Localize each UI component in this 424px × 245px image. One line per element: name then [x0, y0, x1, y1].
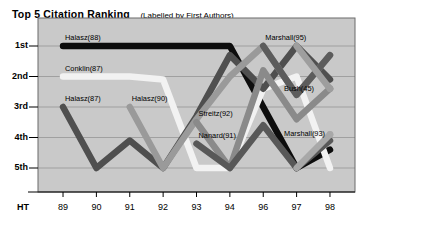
series-label: Streitz(92) [199, 109, 233, 118]
x-axis-tick-label: 92 [150, 202, 176, 212]
x-axis-tick-label: 97 [284, 202, 310, 212]
y-axis-tick-label: 2nd [2, 71, 28, 81]
series-label: Halasz(87) [65, 94, 101, 103]
series-label: Nanard(91) [199, 131, 236, 140]
x-axis-tick-label: 98 [317, 202, 343, 212]
y-axis-tick-label: 3rd [2, 101, 28, 111]
x-axis-tick-label: 96 [250, 202, 276, 212]
series-label: Conklin(87) [65, 64, 103, 73]
series-endpoint-marker [327, 85, 334, 92]
series-label: Marshall(95) [265, 33, 306, 42]
y-axis-tick-label: 5th [2, 162, 28, 172]
series-label: Bush(45) [284, 84, 314, 93]
y-axis-tick-label: 1st [2, 40, 28, 50]
x-axis-tick-label: 89 [50, 202, 76, 212]
x-axis-tick-label: 91 [117, 202, 143, 212]
series-label: Halasz(88) [65, 33, 101, 42]
y-axis-tick-label: 4th [2, 132, 28, 142]
x-axis-tick-label: 93 [184, 202, 210, 212]
citation-ranking-chart: Top 5 Citation Ranking (Labelled by Firs… [0, 0, 424, 245]
series-endpoint-marker [327, 131, 334, 138]
x-axis-origin-label: HT [10, 202, 36, 212]
x-axis-tick-label: 90 [83, 202, 109, 212]
x-axis-tick-label: 94 [217, 202, 243, 212]
series-label: Halasz(90) [132, 94, 168, 103]
series-label: Marshall(93) [284, 129, 325, 138]
